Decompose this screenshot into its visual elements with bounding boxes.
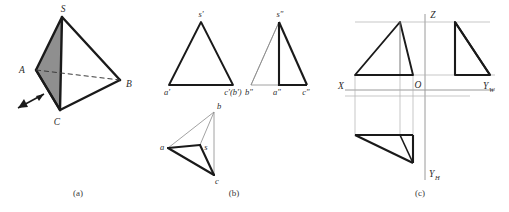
top-label-c: c <box>215 176 219 186</box>
view-direction-arrow <box>18 94 44 108</box>
front-view-triangle <box>169 22 233 85</box>
side-label-c-dprime: c" <box>302 87 310 97</box>
axis-label-yw: Y W <box>483 81 495 93</box>
axis-label-x: X <box>337 81 345 91</box>
side-label-a-dprime: a" <box>273 87 281 97</box>
top-view: a b c s <box>160 101 221 186</box>
front-label-a-prime: a' <box>164 87 170 97</box>
svg-text:H: H <box>434 174 440 181</box>
caption-b: (b) <box>229 188 240 198</box>
edge-s-b <box>62 17 120 80</box>
panel-c-axis-system: Z X O Y W Y H (c) <box>337 10 495 198</box>
vertex-label-B: B <box>126 79 132 89</box>
top-view-bold-edge-a-s <box>168 145 200 148</box>
caption-c: (c) <box>415 188 425 198</box>
technical-drawing-svg: S A B C (a) s' a' c'(b') s" b" a" c" <box>0 0 509 212</box>
axis-label-z: Z <box>430 10 436 20</box>
panel-a-pictorial: S A B C (a) <box>18 4 132 198</box>
side-label-s-dprime: s" <box>277 9 284 19</box>
front-label-s-prime: s' <box>198 9 203 19</box>
vertex-label-S: S <box>61 4 66 14</box>
side-projection-c <box>455 22 490 75</box>
axis-label-yh: Y H <box>429 169 440 181</box>
top-view-thin-edge-s-b <box>200 112 214 145</box>
side-view-edge-s-c <box>279 22 307 85</box>
side-view: s" b" a" c" <box>245 9 310 97</box>
caption-a: (a) <box>73 188 83 198</box>
axis-label-o: O <box>415 80 422 90</box>
edge-b-c <box>60 80 120 110</box>
vertex-label-A: A <box>18 65 25 75</box>
front-view: s' a' c'(b') <box>164 9 242 97</box>
panel-b-projections: s' a' c'(b') s" b" a" c" a b <box>160 9 310 198</box>
top-projection-c <box>355 135 413 163</box>
top-label-b: b <box>217 101 221 111</box>
front-label-cb-prime: c'(b') <box>224 87 241 97</box>
front-projection-c <box>355 22 413 75</box>
vertex-label-C: C <box>54 117 61 127</box>
svg-text:W: W <box>489 86 495 93</box>
top-label-s: s <box>204 142 208 152</box>
figure-root: S A B C (a) s' a' c'(b') s" b" a" c" <box>0 0 509 212</box>
side-label-b-dprime: b" <box>245 87 253 97</box>
top-label-a: a <box>160 142 164 152</box>
